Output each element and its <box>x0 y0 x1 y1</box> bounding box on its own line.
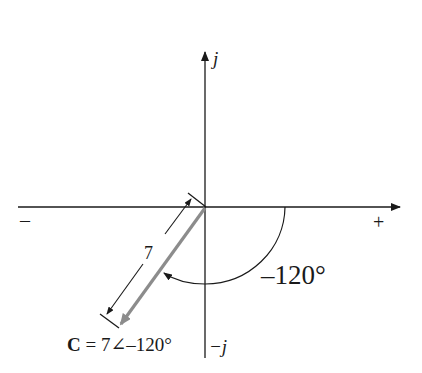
angle-label: –120° <box>261 262 326 289</box>
negative-real-label: – <box>20 210 30 230</box>
positive-real-label: + <box>373 212 384 232</box>
dimension-line-lower <box>107 264 143 314</box>
phasor-name: C <box>67 334 81 355</box>
negative-imaginary-label: −j <box>209 337 227 356</box>
phasor-value: = 7∠–120° <box>81 334 172 355</box>
dimension-tick-bottom <box>100 314 119 328</box>
phasor-diagram <box>0 0 422 373</box>
dimension-line-upper <box>165 199 191 234</box>
positive-imaginary-label: j <box>213 49 218 68</box>
phasor-c-arrow <box>121 208 205 324</box>
magnitude-dimension-label: 7 <box>143 244 154 262</box>
phasor-c-label: C = 7∠–120° <box>67 335 172 354</box>
